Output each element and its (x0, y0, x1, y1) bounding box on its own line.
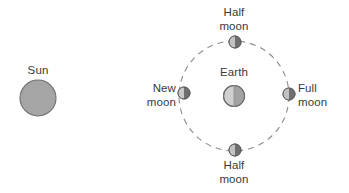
full-moon-label: Full moon (298, 82, 346, 109)
new-moon-label-line1: New (128, 82, 176, 96)
half-moon-top-body (229, 36, 241, 48)
half-moon-top-label-line1: Half (199, 6, 269, 20)
half-moon-top-label-line2: moon (199, 20, 269, 34)
full-moon-label-line2: moon (298, 96, 346, 110)
half-moon-top-label: Half moon (199, 6, 269, 33)
moon-phases-diagram: Sun Earth Half moon Half moon New moon F… (0, 0, 349, 193)
full-moon-label-line1: Full (298, 82, 346, 96)
sun-label: Sun (14, 64, 62, 78)
half-moon-bottom-body (229, 144, 241, 156)
new-moon-body (178, 87, 190, 99)
half-moon-bottom-label-line2: moon (199, 173, 269, 187)
new-moon-label: New moon (128, 82, 176, 109)
half-moon-bottom-label-line1: Half (199, 159, 269, 173)
sun-body (20, 80, 56, 116)
new-moon-label-line2: moon (128, 96, 176, 110)
half-moon-bottom-label: Half moon (199, 159, 269, 186)
earth-label: Earth (205, 66, 263, 80)
full-moon-body (283, 88, 295, 100)
earth-body (224, 86, 245, 107)
